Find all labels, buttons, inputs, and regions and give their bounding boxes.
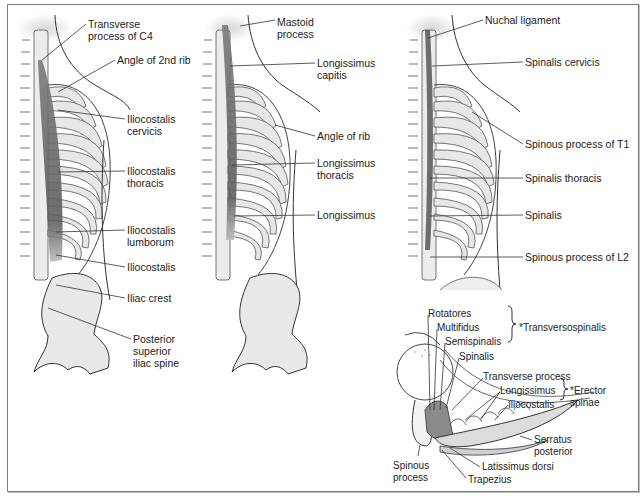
label-group-erector-spinae: *Erector spinae: [570, 385, 606, 408]
label-longissimus-capitis: Longissimus capitis: [317, 57, 375, 81]
label-transverse-process-c4: Transverse process of C4: [88, 18, 153, 42]
label-iliac-crest: Iliac crest: [127, 292, 171, 304]
label-angle-2nd-rib: Angle of 2nd rib: [117, 54, 191, 66]
label-group-transversospinalis: *Transversospinalis: [519, 322, 606, 334]
label-nuchal-ligament: Nuchal ligament: [485, 14, 560, 26]
label-iliocostalis-thoracis: Iliocostalis thoracis: [127, 165, 175, 189]
label-spinous-process: Spinous process: [393, 460, 429, 483]
panel-spinalis: [406, 14, 520, 290]
panel-iliocostalis: [17, 14, 130, 374]
label-posterior-superior-iliac-spine: Posterior superior iliac spine: [133, 333, 179, 369]
label-trapezius: Trapezius: [468, 474, 512, 486]
label-angle-of-rib: Angle of rib: [317, 130, 370, 142]
label-spinalis-thoracis: Spinalis thoracis: [525, 172, 601, 184]
label-iliocostalis-xs: Iliocostalis: [508, 399, 554, 411]
label-longissimus-xs: Longissimus: [500, 385, 556, 397]
label-semispinalis: Semispinalis: [445, 336, 501, 348]
label-longissimus: Longissimus: [317, 209, 375, 221]
label-rotatores: Rotatores: [428, 308, 471, 320]
label-iliocostalis-lumborum: Iliocostalis lumborum: [127, 224, 175, 248]
label-mastoid-process: Mastoid process: [277, 16, 314, 40]
label-spinalis-xs: Spinalis: [459, 351, 494, 363]
label-transverse-process: Transverse process: [483, 371, 570, 383]
label-iliocostalis: Iliocostalis: [127, 261, 175, 273]
label-spinalis: Spinalis: [525, 209, 562, 221]
label-serratus-posterior: Serratus posterior: [534, 434, 573, 457]
label-latissimus-dorsi: Latissimus dorsi: [482, 461, 554, 473]
panel-longissimus: [202, 14, 320, 374]
label-iliocostalis-cervicis: Iliocostalis cervicis: [127, 113, 175, 137]
label-spinous-process-t1: Spinous process of T1: [525, 138, 629, 150]
label-longissimus-thoracis: Longissimus thoracis: [317, 157, 375, 181]
label-spinous-process-l2: Spinous process of L2: [525, 251, 629, 263]
label-multifidus: Multifidus: [437, 322, 479, 334]
label-spinalis-cervicis: Spinalis cervicis: [525, 56, 600, 68]
